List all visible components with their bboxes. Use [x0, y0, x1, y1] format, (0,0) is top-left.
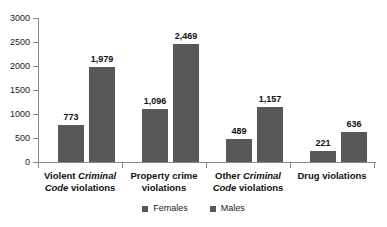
- y-tick-3000: [33, 18, 38, 19]
- legend-item-females[interactable]: Females: [142, 204, 188, 213]
- y-tick-2500: [33, 42, 38, 43]
- category-label-other-line2: Code violations: [213, 182, 284, 193]
- category-label-drug-line1: Drug violations: [297, 170, 366, 181]
- y-axis-line: [38, 18, 39, 163]
- category-label-other-line1: Other Criminal: [215, 170, 281, 181]
- y-axis-label-3000: 3000: [0, 14, 30, 23]
- bar-other-females[interactable]: [226, 139, 252, 163]
- y-tick-1000: [33, 114, 38, 115]
- bar-value-violent-males: 1,979: [72, 55, 132, 64]
- bar-violent-females[interactable]: [58, 125, 84, 162]
- legend-swatch-icon-females: [142, 206, 148, 212]
- bar-chart: 3000 2500 2000 1500 1000 500 0 773 1,979…: [0, 0, 387, 227]
- category-tick-0: [38, 163, 39, 168]
- category-label-drug: Drug violations: [290, 170, 374, 182]
- legend-item-males[interactable]: Males: [210, 204, 245, 213]
- category-tick-1: [122, 163, 123, 168]
- category-label-violent-line1: Violent Criminal: [44, 170, 116, 181]
- bar-property-females[interactable]: [142, 109, 168, 162]
- category-label-property-line1: Property crime: [130, 170, 197, 181]
- category-label-violent-line2: Code violations: [45, 182, 116, 193]
- legend-label-males: Males: [221, 204, 245, 213]
- category-label-violent: Violent Criminal Code violations: [38, 170, 122, 194]
- y-axis-label-500: 500: [0, 134, 30, 143]
- bar-drug-females[interactable]: [310, 151, 336, 162]
- category-label-property: Property crime violations: [122, 170, 206, 194]
- y-tick-500: [33, 138, 38, 139]
- category-tick-2: [206, 163, 207, 168]
- bar-value-violent-females: 773: [41, 113, 101, 122]
- legend-label-females: Females: [153, 204, 188, 213]
- y-axis-label-1500: 1500: [0, 86, 30, 95]
- y-axis-label-2500: 2500: [0, 38, 30, 47]
- category-label-property-line2: violations: [142, 182, 186, 193]
- chart-legend: Females Males: [0, 204, 387, 213]
- bar-value-other-males: 1,157: [240, 95, 300, 104]
- y-axis-label-0: 0: [0, 158, 30, 167]
- bar-value-property-males: 2,469: [156, 32, 216, 41]
- y-axis-label-2000: 2000: [0, 62, 30, 71]
- bar-value-drug-females: 221: [293, 139, 353, 148]
- bar-value-drug-males: 636: [324, 120, 384, 129]
- bar-value-other-females: 489: [209, 127, 269, 136]
- category-tick-4: [374, 163, 375, 168]
- category-label-other: Other Criminal Code violations: [206, 170, 290, 194]
- legend-swatch-icon-males: [210, 206, 216, 212]
- y-tick-1500: [33, 90, 38, 91]
- y-axis-label-1000: 1000: [0, 110, 30, 119]
- bar-value-property-females: 1,096: [125, 97, 185, 106]
- category-tick-3: [290, 163, 291, 168]
- x-axis-line: [38, 162, 376, 163]
- y-tick-2000: [33, 66, 38, 67]
